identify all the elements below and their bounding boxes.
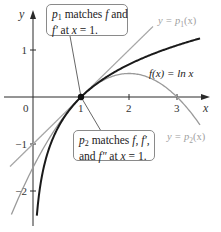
origin-label: 0 <box>23 102 29 114</box>
x-tick-label: 2 <box>126 102 132 114</box>
x-axis-arrow-icon <box>201 94 210 100</box>
top-callout-line1: p1 matches f and <box>52 8 122 24</box>
y-axis-label: y <box>18 7 25 21</box>
top-callout-box: p1 matches f and f′ at x = 1. <box>46 4 128 36</box>
bottom-callout-pointer <box>81 97 101 131</box>
y-tick-label: 1 <box>22 44 28 56</box>
ln-curve <box>37 38 200 215</box>
y-axis-arrow-icon <box>30 10 36 19</box>
bottom-callout-line2: and f″ at x = 1. <box>79 150 149 163</box>
p2-label: y = p2(x) <box>166 131 206 145</box>
p1-label: y = p1(x) <box>157 15 197 29</box>
top-callout-pointer <box>70 36 81 97</box>
y-tick-label: −1 <box>15 138 27 150</box>
top-callout-line2: f′ at x = 1. <box>52 24 122 37</box>
x-tick-label: 1 <box>78 102 84 114</box>
bottom-callout-line1: p2 matches f, f′, <box>79 134 149 150</box>
bottom-callout-box: p2 matches f, f′, and f″ at x = 1. <box>73 130 155 161</box>
tangent-point <box>78 94 84 100</box>
x-tick-label: 3 <box>174 102 180 114</box>
x-axis-label: x <box>202 101 209 115</box>
f-label: f(x) = ln x <box>149 67 193 80</box>
